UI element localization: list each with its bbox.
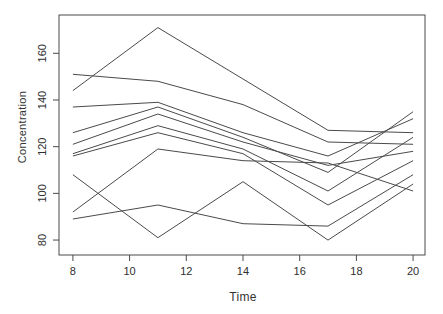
y-tick-label: 140: [36, 91, 48, 109]
series-line-subject-4: [73, 107, 413, 172]
axis-ticks: [53, 53, 413, 261]
series-line-subject-7: [73, 133, 413, 205]
screenshot-root: 810121416182080100120140160 Time Concent…: [0, 0, 443, 314]
axis-tick-labels: 810121416182080100120140160: [36, 44, 419, 277]
y-tick-label: 160: [36, 44, 48, 62]
x-tick-label: 16: [294, 265, 306, 277]
series-line-subject-1: [73, 74, 413, 144]
x-axis-title: Time: [229, 290, 256, 304]
x-tick-label: 12: [180, 265, 192, 277]
plot-box: [59, 15, 425, 255]
plot-border: [59, 15, 425, 255]
x-tick-label: 18: [350, 265, 362, 277]
series-line-subject-9: [73, 149, 413, 212]
x-tick-label: 8: [70, 265, 76, 277]
y-tick-label: 100: [36, 184, 48, 202]
series-line-subject-10: [73, 175, 413, 226]
x-tick-label: 10: [123, 265, 135, 277]
x-tick-label: 20: [407, 265, 419, 277]
y-axis-title: Concentration: [16, 91, 28, 163]
x-tick-label: 14: [237, 265, 249, 277]
series-line-subject-8: [73, 175, 413, 240]
y-tick-label: 120: [36, 137, 48, 155]
series-lines: [73, 28, 413, 241]
series-line-subject-5: [73, 114, 413, 165]
concentration-time-chart: 810121416182080100120140160: [0, 0, 443, 314]
y-tick-label: 80: [36, 234, 48, 246]
